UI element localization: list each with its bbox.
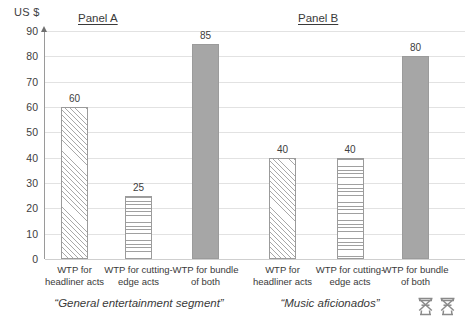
y-axis-line xyxy=(44,31,45,259)
panel-a-caption: “General entertainment segment” xyxy=(54,297,223,309)
y-axis-tick-label: 80 xyxy=(8,50,38,62)
bar-panel-a-1 xyxy=(61,107,88,259)
category-label-line-2: edge acts xyxy=(104,276,172,288)
y-axis-tick-label: 0 xyxy=(8,253,38,265)
category-label-line-1: WTP for xyxy=(253,264,312,276)
category-label-line-1: WTP for xyxy=(45,264,104,276)
bar-value-label: 85 xyxy=(200,30,211,41)
y-axis-arrow-icon xyxy=(41,26,47,32)
bar-value-label: 60 xyxy=(69,93,80,104)
y-axis-tick-label: 70 xyxy=(8,76,38,88)
director-chair-icon-group xyxy=(416,296,457,321)
bar-panel-b-3 xyxy=(402,56,429,259)
category-label-line-1: WTP for bundle xyxy=(383,264,449,276)
bar-value-label: 40 xyxy=(344,144,355,155)
y-axis-tick-label: 40 xyxy=(8,152,38,164)
bar-panel-b-1 xyxy=(269,158,296,259)
category-label: WTP forheadliner acts xyxy=(45,264,104,288)
bar-value-label: 25 xyxy=(133,182,144,193)
category-label-line-1: WTP for cutting- xyxy=(316,264,384,276)
panel-a-title: Panel A xyxy=(78,12,118,24)
panel-b-caption: “Music aficionados” xyxy=(280,297,379,309)
axis-baseline xyxy=(45,259,465,260)
y-axis-tick-label: 90 xyxy=(8,25,38,37)
y-axis-tick-label: 10 xyxy=(8,228,38,240)
panel-b-title: Panel B xyxy=(298,12,338,24)
category-label-line-2: headliner acts xyxy=(253,276,312,288)
y-axis-tick-label: 20 xyxy=(8,202,38,214)
category-label: WTP for cutting-edge acts xyxy=(104,264,172,288)
bar-panel-a-2 xyxy=(125,196,152,259)
director-chair-icon xyxy=(438,296,457,321)
bar-value-label: 80 xyxy=(410,42,421,53)
category-label-line-1: WTP for cutting- xyxy=(104,264,172,276)
y-axis-unit-label: US $ xyxy=(14,6,40,18)
y-axis-tick-label: 50 xyxy=(8,126,38,138)
category-label-line-2: of both xyxy=(173,276,239,288)
director-chair-icon xyxy=(416,296,435,321)
category-label: WTP for cutting-edge acts xyxy=(316,264,384,288)
y-axis-tick-label: 60 xyxy=(8,101,38,113)
willingness-to-pay-bar-chart: US $ 9080706050403020100 Panel A Panel B… xyxy=(0,0,468,329)
y-axis-tick-label: 30 xyxy=(8,177,38,189)
bar-panel-a-3 xyxy=(192,44,219,259)
bar-panel-b-2 xyxy=(337,158,364,259)
category-label-line-2: edge acts xyxy=(316,276,384,288)
gridline xyxy=(45,31,465,32)
category-label: WTP forheadliner acts xyxy=(253,264,312,288)
category-label-line-1: WTP for bundle xyxy=(173,264,239,276)
bar-value-label: 40 xyxy=(277,144,288,155)
category-label: WTP for bundleof both xyxy=(173,264,239,288)
category-label-line-2: of both xyxy=(383,276,449,288)
category-label-line-2: headliner acts xyxy=(45,276,104,288)
category-label: WTP for bundleof both xyxy=(383,264,449,288)
